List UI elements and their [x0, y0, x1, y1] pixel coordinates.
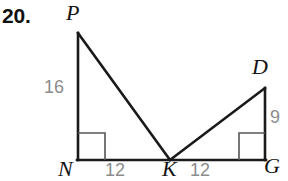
measure-label-NK: 12 [105, 161, 125, 180]
segment-DK [170, 88, 265, 160]
measure-label-KG: 12 [190, 161, 210, 180]
vertex-label-N: N [58, 158, 73, 180]
measure-label-PN: 16 [44, 78, 64, 97]
vertex-label-G: G [264, 155, 280, 177]
segment-PK [78, 33, 170, 160]
right-angle-G-icon [239, 133, 265, 160]
figure-page: 20. P N K G D 16 9 12 12 [0, 0, 288, 181]
vertex-label-P: P [66, 2, 79, 24]
vertex-label-K: K [162, 158, 177, 180]
measure-label-DG: 9 [270, 108, 280, 127]
right-angle-N-icon [78, 133, 105, 160]
vertex-label-D: D [252, 56, 268, 78]
